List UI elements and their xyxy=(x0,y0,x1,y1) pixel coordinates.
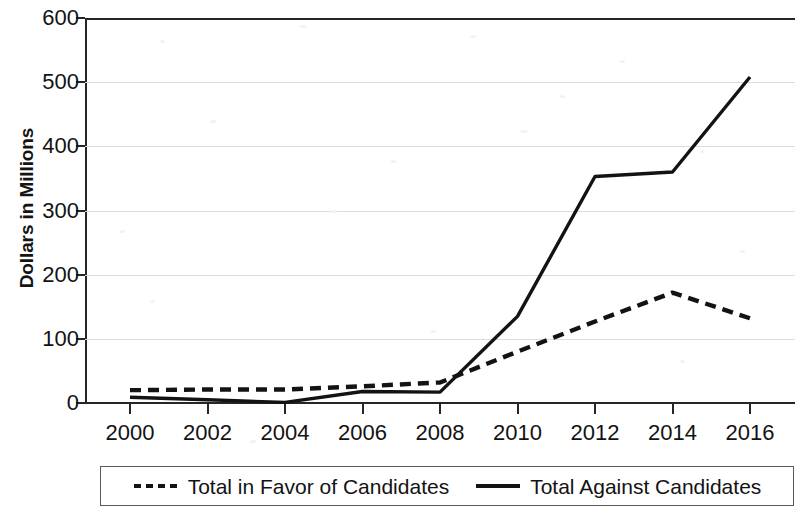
x-axis-tick xyxy=(594,403,596,414)
x-axis-tick-label: 2014 xyxy=(648,422,697,444)
x-axis-tick xyxy=(284,403,286,414)
x-axis-tick-label: 2000 xyxy=(106,422,155,444)
x-axis-tick-label: 2016 xyxy=(726,422,775,444)
line-chart-figure: Dollars in Millions 0100200300400500600 … xyxy=(0,0,810,508)
x-axis-tick xyxy=(749,403,751,414)
legend-entry-against: Total Against Candidates xyxy=(475,476,761,497)
y-axis-tick-label: 600 xyxy=(42,7,79,29)
x-axis-tick-label: 2010 xyxy=(493,422,542,444)
series-layer xyxy=(85,18,795,403)
y-axis-tick-label: 400 xyxy=(42,135,79,157)
legend-label-favor: Total in Favor of Candidates xyxy=(188,476,449,497)
scan-artifact xyxy=(250,440,256,443)
x-axis-tick xyxy=(129,403,131,414)
x-axis-tick xyxy=(439,403,441,414)
x-axis-tick-label: 2006 xyxy=(338,422,387,444)
solid-line-swatch-icon xyxy=(475,479,521,493)
y-axis-tick-label: 0 xyxy=(67,392,79,414)
legend-entry-favor: Total in Favor of Candidates xyxy=(133,476,449,497)
x-axis-tick-label: 2002 xyxy=(183,422,232,444)
y-axis-tick-label: 100 xyxy=(42,328,79,350)
x-axis-tick xyxy=(207,403,209,414)
x-axis-tick xyxy=(362,403,364,414)
x-axis-tick xyxy=(517,403,519,414)
legend-label-against: Total Against Candidates xyxy=(530,476,761,497)
plot-area: 0100200300400500600 20002002200420062008… xyxy=(85,18,795,403)
x-axis-tick xyxy=(672,403,674,414)
y-axis-tick-label: 500 xyxy=(42,71,79,93)
y-axis-tick-label: 300 xyxy=(42,200,79,222)
series-line-total-against-candidates xyxy=(130,77,750,402)
dashed-line-swatch-icon xyxy=(133,479,179,493)
x-axis-tick-label: 2008 xyxy=(416,422,465,444)
x-axis-tick-label: 2004 xyxy=(261,422,310,444)
y-axis-title: Dollars in Millions xyxy=(16,78,38,338)
x-axis-tick-label: 2012 xyxy=(571,422,620,444)
y-axis-tick-label: 200 xyxy=(42,264,79,286)
series-line-total-in-favor-of-candidates xyxy=(130,293,750,391)
chart-legend: Total in Favor of Candidates Total Again… xyxy=(100,466,794,506)
